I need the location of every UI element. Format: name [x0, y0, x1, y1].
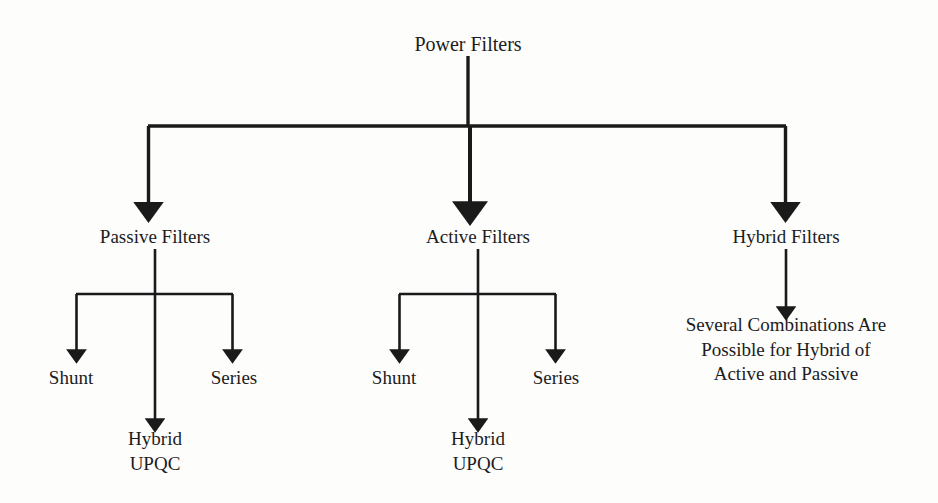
node-active-filters-label: Active Filters: [426, 226, 530, 247]
node-active-shunt-label: Shunt: [372, 367, 416, 388]
node-passive-hybrid-upqc-line-1: Hybrid: [128, 427, 182, 452]
node-passive-hybrid-upqc: Hybrid UPQC: [128, 427, 182, 476]
node-passive-shunt: Shunt: [49, 366, 93, 389]
node-hybrid-filters: Hybrid Filters: [732, 225, 839, 248]
node-hybrid-combinations-line-3: Active and Passive: [686, 362, 887, 387]
node-power-filters-label: Power Filters: [414, 33, 521, 55]
node-passive-series: Series: [211, 366, 257, 389]
node-hybrid-combinations: Several Combinations Are Possible for Hy…: [686, 313, 887, 387]
node-passive-filters-label: Passive Filters: [100, 226, 210, 247]
node-passive-series-label: Series: [211, 367, 257, 388]
node-active-hybrid-upqc-line-1: Hybrid: [451, 427, 505, 452]
node-passive-shunt-label: Shunt: [49, 367, 93, 388]
node-active-series: Series: [533, 366, 579, 389]
node-hybrid-filters-label: Hybrid Filters: [732, 226, 839, 247]
node-hybrid-combinations-line-2: Possible for Hybrid of: [686, 338, 887, 363]
node-active-filters: Active Filters: [426, 225, 530, 248]
node-passive-filters: Passive Filters: [100, 225, 210, 248]
node-active-hybrid-upqc-line-2: UPQC: [451, 452, 505, 477]
node-active-hybrid-upqc: Hybrid UPQC: [451, 427, 505, 476]
node-active-series-label: Series: [533, 367, 579, 388]
node-active-shunt: Shunt: [372, 366, 416, 389]
diagram-canvas: Power Filters Passive Filters Active Fil…: [0, 0, 938, 503]
node-hybrid-combinations-line-1: Several Combinations Are: [686, 313, 887, 338]
node-passive-hybrid-upqc-line-2: UPQC: [128, 452, 182, 477]
node-power-filters: Power Filters: [414, 32, 521, 56]
